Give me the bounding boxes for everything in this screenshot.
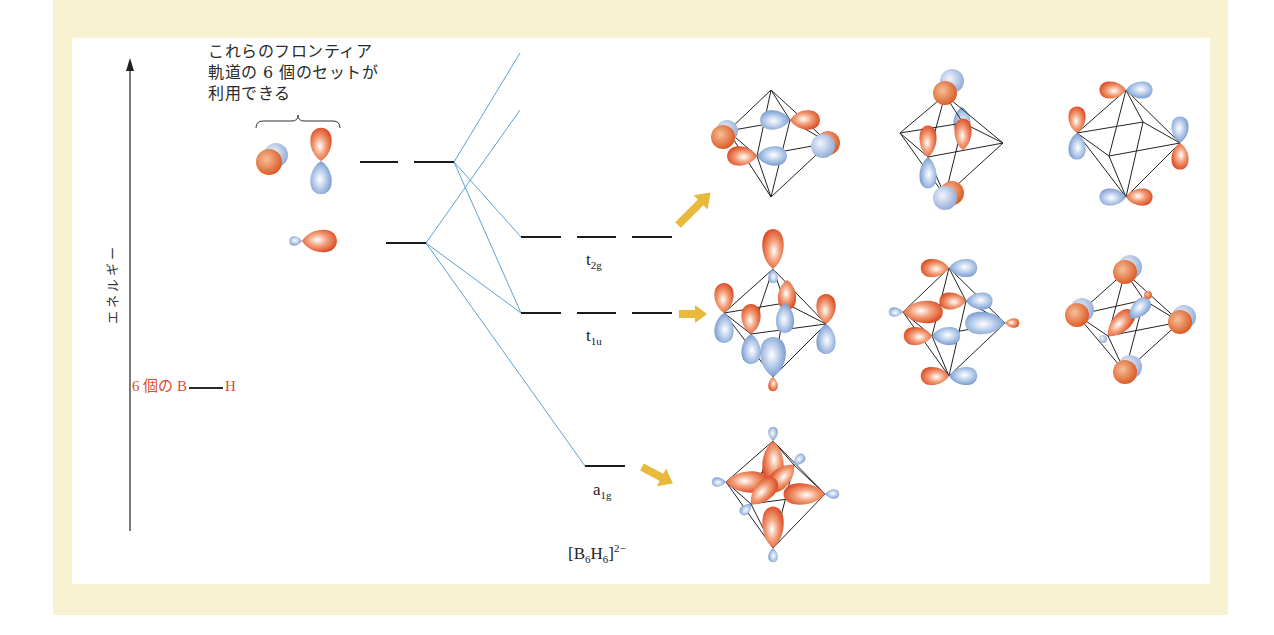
arrow-t2g-icon: [671, 185, 718, 232]
level-label-sub: 2g: [591, 259, 602, 271]
arrows: [637, 185, 717, 492]
note-line-3: 利用できる: [208, 83, 378, 104]
correlation-lines: [426, 53, 585, 466]
mo-t1u-octahedron-1: [714, 229, 835, 391]
molecule-label: [B6H6]2−: [568, 542, 626, 565]
mo-t2g-octahedron-2: [900, 69, 1003, 210]
energy-axis-label: エネルギー: [102, 264, 122, 324]
note-line-1: これらのフロンティア: [208, 41, 378, 62]
level-label-t2g: t2g: [586, 250, 602, 271]
bh-atom-b: B: [177, 378, 187, 394]
arrow-a1g-icon: [637, 458, 677, 492]
mo-t1u-octahedron-3: [1065, 255, 1196, 384]
mo-t2g-octahedron-1: [711, 90, 840, 197]
mo-t2g-octahedron-3: [1068, 81, 1188, 205]
mo-diagram: [0, 0, 1274, 635]
formula-part: H: [591, 544, 603, 563]
level-label-t1u: t1u: [586, 326, 602, 347]
formula-part: [B: [568, 544, 585, 563]
brace-icon: [256, 115, 340, 128]
level-label-sub: 1g: [601, 489, 612, 501]
frontier-orbitals-note: これらのフロンティア 軌道の 6 個のセットが 利用できる: [208, 41, 378, 104]
frontier-orbital-s-pair: [256, 143, 288, 175]
level-label-a1g: a1g: [593, 480, 612, 501]
bond-line-icon: [189, 387, 223, 389]
bh-fragment-label: 6 個の BH: [132, 374, 236, 395]
level-label-sub: 1u: [591, 335, 602, 347]
note-line-2: 軌道の 6 個のセットが: [208, 62, 378, 83]
arrow-t1u-icon: [679, 305, 707, 323]
formula-charge: 2−: [614, 542, 626, 554]
bh-atom-h: H: [225, 378, 236, 394]
energy-axis: [126, 58, 134, 531]
bh-prefix: 6 個の: [132, 378, 173, 394]
sp-hybrid-orbital: [289, 230, 337, 253]
mo-t1u-octahedron-2: [889, 259, 1020, 385]
mo-a1g-octahedron: [712, 427, 840, 563]
energy-levels: [360, 162, 672, 466]
axis-arrowhead-icon: [126, 58, 134, 71]
level-label-main: a: [593, 480, 601, 499]
frontier-orbital-p: [310, 128, 331, 195]
